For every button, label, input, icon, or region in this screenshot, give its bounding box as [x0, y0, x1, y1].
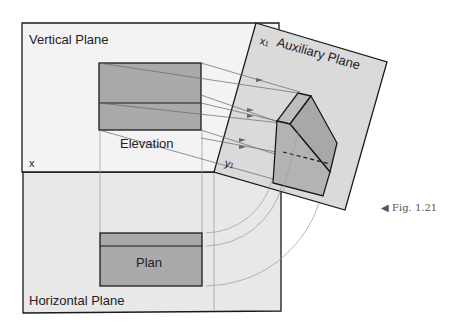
- x-label: x: [29, 157, 35, 169]
- elevation-label: Elevation: [120, 136, 173, 151]
- auxiliary-projection-diagram: Vertical Plane Horizontal Plane Elevatio…: [0, 0, 453, 331]
- horizontal-plane-label: Horizontal Plane: [29, 293, 124, 308]
- figure-marker-icon: ◀: [381, 202, 389, 213]
- elevation-view: [99, 63, 201, 130]
- figure-reference: Fig. 1.21: [392, 202, 437, 213]
- vertical-plane-label: Vertical Plane: [29, 32, 109, 47]
- plan-label: Plan: [136, 255, 162, 270]
